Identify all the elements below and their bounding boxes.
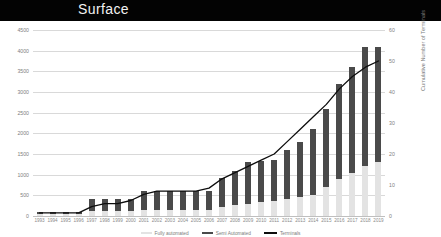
y2-tick-label: 30 bbox=[389, 120, 395, 126]
legend-label: Semi Automated bbox=[216, 231, 251, 236]
x-tick-label: 1998 bbox=[100, 218, 110, 223]
x-tick-label: 2019 bbox=[373, 218, 383, 223]
chart-legend: Fully automatedSemi AutomatedTerminals bbox=[0, 228, 441, 237]
y-tick-label: 4000 bbox=[17, 48, 29, 54]
terminals-line bbox=[40, 61, 379, 213]
legend-item[interactable]: Fully automated bbox=[141, 231, 189, 236]
legend-swatch-icon bbox=[264, 232, 277, 234]
x-tick-label: 1999 bbox=[113, 218, 123, 223]
y-tick-label: 500 bbox=[20, 192, 29, 198]
x-tick-label: 2010 bbox=[256, 218, 266, 223]
x-tick-label: 2003 bbox=[165, 218, 175, 223]
y-axis-ticks-right: 0102030405060 bbox=[387, 30, 413, 216]
x-tick-label: 2004 bbox=[178, 218, 188, 223]
x-tick-label: 2001 bbox=[139, 218, 149, 223]
y2-tick-label: 20 bbox=[389, 151, 395, 157]
x-tick-label: 2005 bbox=[191, 218, 201, 223]
x-tick-label: 2015 bbox=[321, 218, 331, 223]
legend-swatch-icon bbox=[202, 232, 213, 235]
y2-tick-label: 60 bbox=[389, 27, 395, 33]
y-tick-label: 2500 bbox=[17, 110, 29, 116]
legend-label: Fully automated bbox=[155, 231, 189, 236]
y-tick-label: 2000 bbox=[17, 130, 29, 136]
x-tick-label: 1996 bbox=[74, 218, 84, 223]
gridline bbox=[33, 216, 385, 217]
x-tick-label: 2014 bbox=[308, 218, 318, 223]
y2-tick-label: 10 bbox=[389, 182, 395, 188]
y-tick-label: 3000 bbox=[17, 89, 29, 95]
x-tick-label: 1994 bbox=[47, 218, 57, 223]
x-tick-label: 2008 bbox=[230, 218, 240, 223]
y-tick-label: 1500 bbox=[17, 151, 29, 157]
y-tick-label: 1000 bbox=[17, 172, 29, 178]
x-tick-label: 2016 bbox=[334, 218, 344, 223]
x-tick-label: 2000 bbox=[126, 218, 136, 223]
y2-tick-label: 50 bbox=[389, 58, 395, 64]
y-tick-label: 3500 bbox=[17, 68, 29, 74]
x-tick-label: 1997 bbox=[87, 218, 97, 223]
y-axis-title-right: Cumulative Number of Terminals bbox=[420, 10, 426, 91]
legend-label: Terminals bbox=[280, 231, 301, 236]
x-tick-label: 1995 bbox=[60, 218, 70, 223]
y2-tick-label: 40 bbox=[389, 89, 395, 95]
line-series-layer bbox=[33, 30, 385, 216]
page-title: Surface bbox=[78, 1, 129, 17]
legend-item[interactable]: Semi Automated bbox=[202, 231, 251, 236]
x-tick-label: 2018 bbox=[360, 218, 370, 223]
title-bar: Surface bbox=[0, 0, 441, 21]
x-tick-label: 2009 bbox=[243, 218, 253, 223]
x-tick-label: 2002 bbox=[152, 218, 162, 223]
y-tick-label: 4500 bbox=[17, 27, 29, 33]
x-tick-label: 1993 bbox=[34, 218, 44, 223]
x-tick-label: 2013 bbox=[295, 218, 305, 223]
plot-region bbox=[33, 30, 385, 216]
x-axis-ticks: 1993199419951996199719981999200020012002… bbox=[33, 218, 385, 228]
y-axis-ticks-left: 050010001500200025003000350040004500 bbox=[0, 30, 31, 216]
x-tick-label: 2006 bbox=[204, 218, 214, 223]
chart-screenshot: Surface Cumulative Terminal Surface (Ha)… bbox=[0, 0, 441, 237]
x-tick-label: 2012 bbox=[282, 218, 292, 223]
x-tick-label: 2011 bbox=[269, 218, 279, 223]
y2-tick-label: 0 bbox=[389, 213, 392, 219]
legend-swatch-icon bbox=[141, 232, 152, 235]
y-tick-label: 0 bbox=[26, 213, 29, 219]
chart-area: Cumulative Terminal Surface (Ha) Cumulat… bbox=[0, 21, 441, 237]
x-tick-label: 2017 bbox=[347, 218, 357, 223]
legend-item[interactable]: Terminals bbox=[264, 231, 301, 236]
x-tick-label: 2007 bbox=[217, 218, 227, 223]
